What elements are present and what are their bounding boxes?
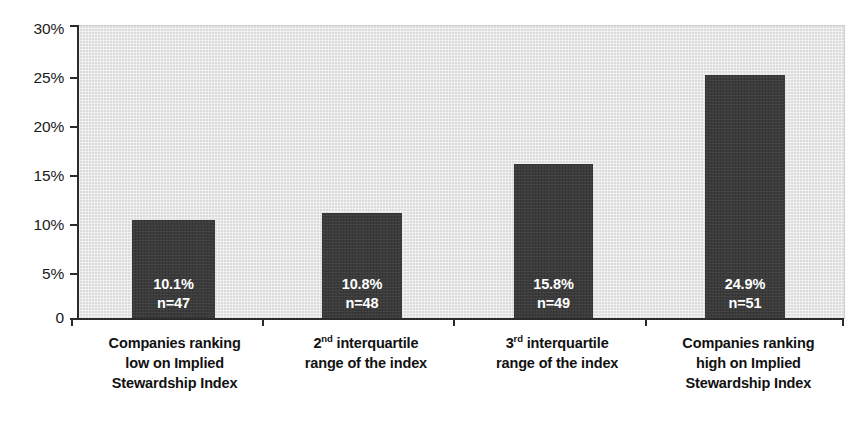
y-tick-mark-30 <box>70 25 78 27</box>
x-category-line-1-0: interquartile <box>337 335 419 351</box>
bar-value-label-2: 15.8% <box>533 275 574 294</box>
x-tick-mark-1 <box>262 318 264 326</box>
x-category-line-2-1: range of the index <box>496 355 618 371</box>
x-category-line-3-1: high on Implied <box>696 355 801 371</box>
bar-3[interactable]: 24.9% n=51 <box>705 75 785 319</box>
y-tick-label-20: 20% <box>0 118 64 136</box>
bar-value-label-0: 10.1% <box>153 275 194 294</box>
bar-n-label-2: n=49 <box>537 294 570 313</box>
bar-n-label-1: n=48 <box>345 294 378 313</box>
x-category-ordinal-suffix-2: rd <box>514 333 523 344</box>
x-category-line-2-0: interquartile <box>527 335 609 351</box>
y-tick-mark-15 <box>70 175 78 177</box>
bar-value-label-3: 24.9% <box>725 275 766 294</box>
x-category-line-1-1: range of the index <box>305 355 427 371</box>
x-category-label-0: Companies ranking low on Implied Steward… <box>79 333 270 423</box>
x-tick-mark-2 <box>453 318 455 326</box>
bar-n-label-3: n=51 <box>728 294 761 313</box>
y-axis-labels: 30% 25% 20% 15% 10% 5% 0 <box>0 0 64 330</box>
x-category-label-1: 2nd interquartile range of the index <box>270 333 461 423</box>
x-tick-mark-3 <box>645 318 647 326</box>
y-tick-mark-20 <box>70 126 78 128</box>
y-tick-label-0: 0 <box>0 309 64 327</box>
y-tick-mark-25 <box>70 77 78 79</box>
bar-chart: 30% 25% 20% 15% 10% 5% 0 10.1% n=47 10.8… <box>0 0 865 425</box>
x-category-label-3: Companies ranking high on Implied Stewar… <box>653 333 844 423</box>
x-category-line-0-1: low on Implied <box>125 355 224 371</box>
x-category-line-0-0: Companies ranking <box>109 335 241 351</box>
bar-2[interactable]: 15.8% n=49 <box>514 164 593 319</box>
x-category-line-3-2: Stewardship Index <box>686 375 812 391</box>
plot-area: 10.1% n=47 10.8% n=48 15.8% n=49 24.9% n… <box>79 25 845 319</box>
y-tick-label-15: 15% <box>0 167 64 185</box>
bar-n-label-0: n=47 <box>157 294 190 313</box>
x-axis-labels: Companies ranking low on Implied Steward… <box>79 333 844 423</box>
bar-1[interactable]: 10.8% n=48 <box>322 213 402 319</box>
x-axis-line <box>70 318 844 320</box>
y-tick-label-25: 25% <box>0 69 64 87</box>
y-tick-label-5: 5% <box>0 265 64 283</box>
x-category-ordinal-2: 3 <box>506 335 514 351</box>
x-tick-mark-0 <box>71 318 73 326</box>
y-tick-mark-5 <box>70 273 78 275</box>
y-tick-mark-10 <box>70 224 78 226</box>
x-category-line-3-0: Companies ranking <box>682 335 814 351</box>
x-category-line-0-2: Stewardship Index <box>112 375 238 391</box>
y-tick-label-30: 30% <box>0 20 64 38</box>
bar-0[interactable]: 10.1% n=47 <box>132 220 215 319</box>
y-tick-label-10: 10% <box>0 216 64 234</box>
x-category-ordinal-suffix-1: nd <box>321 333 332 344</box>
x-tick-mark-4 <box>842 318 844 326</box>
bars-layer: 10.1% n=47 10.8% n=48 15.8% n=49 24.9% n… <box>79 26 844 319</box>
bar-value-label-1: 10.8% <box>342 275 383 294</box>
x-category-label-2: 3rd interquartile range of the index <box>462 333 653 423</box>
